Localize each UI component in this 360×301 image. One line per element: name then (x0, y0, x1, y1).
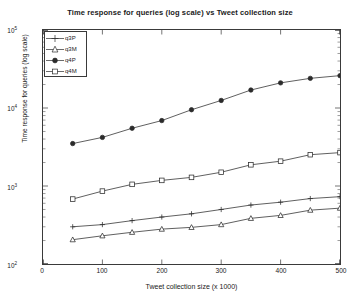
legend-label-q4M: q4M (65, 66, 77, 77)
y-axis-tick-100: 102 (0, 261, 17, 269)
x-axis-tick-400: 400 (266, 267, 296, 274)
legend-item-q4M[interactable]: q4M (45, 66, 86, 77)
x-axis-tick-500: 500 (326, 267, 356, 274)
legend-item-q3M[interactable]: q3M (45, 44, 86, 55)
x-axis-tick-300: 300 (206, 267, 236, 274)
chart-figure: Time response for queries (log scale) vs… (0, 0, 360, 301)
chart-canvas (43, 30, 340, 264)
legend-item-q4P[interactable]: q4P (45, 55, 86, 66)
legend-symbol-filled-circle (45, 55, 65, 66)
x-axis-tick-0: 0 (27, 267, 57, 274)
x-axis-tick-100: 100 (87, 267, 117, 274)
legend-item-q3P[interactable]: q3P (45, 33, 86, 44)
legend-symbol-square (45, 66, 65, 77)
legend-symbol-plus (45, 33, 65, 44)
y-axis-label: Time response for queries (log scale) (21, 0, 28, 209)
legend-label-q4P: q4P (65, 55, 76, 66)
legend-symbol-triangle (45, 44, 65, 55)
x-axis-tick-200: 200 (147, 267, 177, 274)
y-axis-tick-10000: 104 (0, 104, 17, 112)
chart-title: Time response for queries (log scale) vs… (0, 8, 360, 17)
legend-label-q3P: q3P (65, 33, 76, 44)
y-axis-tick-1000: 103 (0, 183, 17, 191)
legend-label-q3M: q3M (65, 44, 77, 55)
x-axis-label: Tweet collection size (x 1000) (42, 283, 341, 290)
chart-legend: q3P q3M q4P q4M (44, 31, 87, 77)
y-axis-tick-100000: 105 (0, 26, 17, 34)
